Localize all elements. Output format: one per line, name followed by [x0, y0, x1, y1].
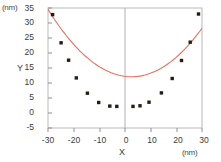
fit-curve: [44, 2, 210, 77]
data-point: [197, 12, 200, 15]
data-points: [51, 12, 200, 108]
x-axis-ticks: [48, 128, 202, 132]
chart-figure: (nm) (nm) Y X 35 30 25 20 15 10 5 0 -5 -…: [0, 0, 221, 162]
data-point: [86, 92, 89, 95]
data-point: [189, 41, 192, 44]
data-point: [75, 76, 78, 79]
data-point: [171, 77, 174, 80]
data-point: [147, 101, 150, 104]
data-point: [67, 59, 70, 62]
data-point: [115, 105, 118, 108]
data-point: [108, 104, 111, 107]
plot-canvas: [0, 0, 221, 162]
data-point: [51, 13, 54, 16]
data-point: [97, 101, 100, 104]
data-point: [131, 105, 134, 108]
y-axis-ticks: [48, 8, 52, 128]
data-point: [59, 41, 62, 44]
data-point: [180, 59, 183, 62]
data-point: [160, 91, 163, 94]
data-point: [138, 104, 141, 107]
